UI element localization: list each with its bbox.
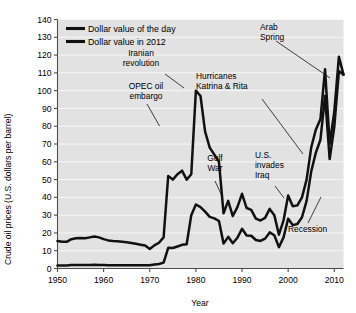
x-tick-label-1950: 1950 (48, 275, 67, 285)
annotation-gulf-war-line2: War (207, 163, 222, 173)
x-axis-title: Year (191, 298, 209, 308)
y-tick-label-0: 0 (47, 264, 52, 274)
y-axis-title: Crude oil prices (U.S. dollars per barre… (3, 113, 13, 265)
x-tick-label-1970: 1970 (140, 275, 159, 285)
annotation-us-invades-iraq-line2: invades (255, 160, 284, 170)
annotation-gulf-war-line1: Gulf (207, 153, 223, 163)
y-tick-label-20: 20 (42, 228, 52, 238)
y-tick-label-40: 40 (42, 192, 52, 202)
annotation-opec-oil-embargo-line2: embargo (129, 91, 162, 101)
x-tick-label-2010: 2010 (325, 275, 344, 285)
x-axis-ticks: 1950196019701980199020002010 (48, 269, 344, 285)
x-tick-label-1980: 1980 (186, 275, 205, 285)
y-tick-label-130: 130 (37, 32, 52, 42)
y-tick-label-70: 70 (42, 139, 52, 149)
y-tick-label-140: 140 (37, 15, 52, 25)
y-tick-label-90: 90 (42, 104, 52, 114)
y-tick-label-80: 80 (42, 121, 52, 131)
annotation-hurricanes-line1: Hurricanes (196, 71, 237, 81)
y-tick-label-120: 120 (37, 50, 52, 60)
annotation-opec-oil-embargo-line1: OPEC oil (129, 81, 164, 91)
annotation-iranian-revolution-line2: revolution (123, 58, 160, 68)
y-tick-label-100: 100 (37, 86, 52, 96)
chart-svg: 0102030405060708090100110120130140 19501… (0, 0, 356, 313)
y-tick-label-50: 50 (42, 175, 52, 185)
y-tick-label-60: 60 (42, 157, 52, 167)
y-axis-ticks: 0102030405060708090100110120130140 (37, 15, 57, 274)
y-tick-label-30: 30 (42, 210, 52, 220)
y-tick-label-10: 10 (42, 246, 52, 256)
x-tick-label-1990: 1990 (232, 275, 251, 285)
legend-label-dollar-value-in-2012: Dollar value in 2012 (88, 37, 166, 47)
annotation-arab-spring-line2: Spring (260, 32, 285, 42)
crude-oil-price-chart: 0102030405060708090100110120130140 19501… (0, 0, 356, 313)
x-tick-label-1960: 1960 (94, 275, 113, 285)
annotation-arab-spring-line1: Arab (260, 22, 278, 32)
legend-label-dollar-value-of-the-day: Dollar value of the day (88, 24, 176, 34)
annotation-recession-line1: Recession (288, 224, 327, 234)
annotation-hurricanes-line2: Katrina & Rita (196, 81, 248, 91)
annotation-us-invades-iraq-line1: U.S. (255, 150, 271, 160)
annotation-us-invades-iraq-line3: Iraq (255, 170, 270, 180)
x-tick-label-2000: 2000 (279, 275, 298, 285)
annotation-iranian-revolution-line1: Iranian (128, 48, 154, 58)
y-tick-label-110: 110 (38, 68, 52, 78)
